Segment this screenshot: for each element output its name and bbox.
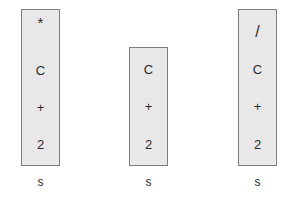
stack-item: 2 [22,126,59,163]
stack-item: 2 [239,126,276,164]
stack-label: s [238,176,277,188]
stack-group: C+2s [129,0,168,207]
stack-diagram: *C+2sC+2s/C+2s [0,0,298,207]
stack-item: 2 [130,126,167,163]
stack-item: / [239,13,276,51]
stack-box: /C+2 [238,9,277,166]
stack-group: /C+2s [238,0,277,207]
stack-box: C+2 [129,47,168,166]
stack-item: + [22,89,59,126]
stack-item: + [130,88,167,125]
stack-item: + [239,88,276,126]
stack-box: *C+2 [21,9,60,166]
stack-item: C [22,52,59,89]
stack-item: C [130,51,167,88]
stack-item: C [239,51,276,89]
stack-label: s [21,176,60,188]
stack-group: *C+2s [21,0,60,207]
stack-label: s [129,176,168,188]
stack-item: * [22,13,59,52]
